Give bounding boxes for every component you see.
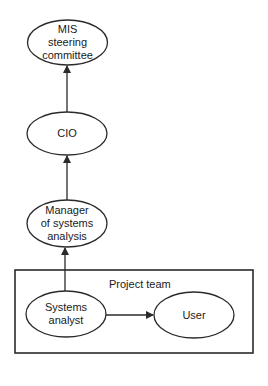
label-line: committee bbox=[42, 49, 93, 62]
label-line: Manager bbox=[45, 204, 88, 217]
manager-systems-analysis-label: Manager of systems analysis bbox=[27, 200, 107, 247]
label-line: User bbox=[182, 309, 205, 322]
cio-label: CIO bbox=[27, 112, 107, 155]
project-team-label: Project team bbox=[109, 278, 171, 290]
label-line: of systems bbox=[41, 217, 94, 230]
label-line: steering bbox=[48, 36, 87, 49]
label-line: MIS bbox=[58, 23, 78, 36]
label-line: analyst bbox=[49, 314, 84, 327]
user-label: User bbox=[154, 292, 234, 338]
systems-analyst-label: Systems analyst bbox=[26, 291, 106, 337]
mis-steering-committee-label: MIS steering committee bbox=[27, 20, 108, 65]
label-line: CIO bbox=[57, 127, 77, 140]
label-line: analysis bbox=[47, 230, 87, 243]
label-line: Systems bbox=[45, 301, 87, 314]
